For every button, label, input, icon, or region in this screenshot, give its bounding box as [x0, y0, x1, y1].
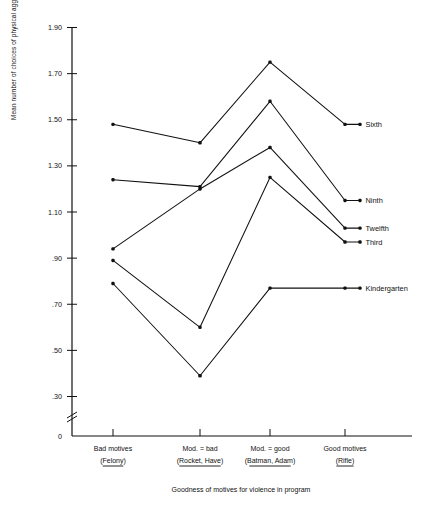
y-axis-ticks: 1.901.701.501.301.10.90.70.50.300: [48, 23, 77, 441]
series-line-third: [113, 177, 345, 327]
data-point: [111, 123, 114, 126]
series-group: [111, 60, 361, 377]
series-end-marker: [358, 286, 361, 289]
data-point: [268, 60, 271, 63]
series-line-twelfth: [113, 147, 345, 248]
series-label-third: Third: [366, 238, 383, 247]
data-point: [198, 187, 201, 190]
series-label-sixth: Sixth: [366, 120, 382, 129]
series-end-marker: [358, 199, 361, 202]
axis-lines: [67, 27, 412, 436]
line-chart-plot: 1.901.701.501.301.10.90.70.50.300 SixthN…: [0, 0, 430, 514]
category-label-top: Bad motives: [94, 445, 133, 452]
data-point: [198, 374, 201, 377]
series-end-marker: [358, 123, 361, 126]
data-point: [111, 247, 114, 250]
data-point: [198, 141, 201, 144]
series-label-ninth: Ninth: [366, 196, 383, 205]
y-tick-label: 1.10: [48, 208, 62, 217]
y-tick-label: .50: [52, 346, 62, 355]
x-axis-title: Goodness of motives for violence in prog…: [172, 486, 311, 494]
y-tick-label: 1.50: [48, 115, 62, 124]
category-labels: Bad motives(Felony)Mod. = bad(Rocket, Ha…: [94, 445, 367, 466]
series-end-marker: [358, 240, 361, 243]
data-point: [111, 178, 114, 181]
category-label-bottom: (Rifle): [336, 457, 355, 465]
data-point: [198, 326, 201, 329]
series-end-marker: [358, 226, 361, 229]
series-line-kindergarten: [113, 283, 345, 375]
data-point: [268, 176, 271, 179]
figure-container: Mean number of choices of physical aggre…: [0, 0, 430, 514]
series-end-labels: SixthNinthTwelfthThirdKindergarten: [366, 120, 408, 293]
y-tick-label: 1.90: [48, 23, 62, 32]
category-label-top: Mod. = bad: [182, 445, 217, 452]
series-line-ninth: [113, 101, 345, 200]
data-point: [111, 259, 114, 262]
series-line-sixth: [113, 62, 345, 143]
category-label-top: Good motives: [323, 445, 367, 452]
y-tick-label: .90: [52, 254, 62, 263]
category-label-bottom: (Felony): [100, 457, 126, 465]
y-tick-label: .30: [52, 392, 62, 401]
y-tick-label: 1.70: [48, 69, 62, 78]
y-tick-label: .70: [52, 300, 62, 309]
category-label-bottom: (Rocket, Have): [177, 457, 224, 465]
category-label-bottom: (Batman, Adam): [245, 457, 296, 465]
category-label-top: Mod. = good: [250, 445, 289, 453]
data-point: [111, 282, 114, 285]
x-axis-ticks: [113, 429, 345, 436]
data-point: [268, 100, 271, 103]
y-tick-label: 1.30: [48, 161, 62, 170]
series-label-twelfth: Twelfth: [366, 224, 389, 233]
data-point: [268, 286, 271, 289]
data-point: [268, 146, 271, 149]
y-tick-label: 0: [58, 432, 62, 441]
y-axis-title: Mean number of choices of physical aggre…: [10, 0, 17, 120]
series-label-kindergarten: Kindergarten: [366, 284, 408, 293]
